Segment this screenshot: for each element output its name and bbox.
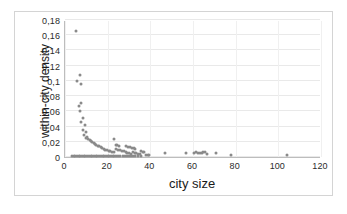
data-point — [82, 117, 85, 120]
data-point — [214, 151, 217, 154]
data-point — [229, 154, 232, 157]
gridline-vertical — [278, 21, 279, 157]
x-tick-label: 60 — [187, 161, 197, 172]
data-point — [139, 155, 142, 158]
x-tick-label: 20 — [102, 161, 112, 172]
data-point — [113, 138, 116, 141]
data-point — [118, 144, 121, 147]
data-point — [78, 105, 81, 108]
data-point — [184, 152, 187, 155]
data-point — [83, 124, 86, 127]
data-point — [112, 151, 115, 154]
gridline-vertical — [193, 21, 194, 157]
plot-area — [64, 21, 320, 158]
x-tick-label: 80 — [230, 161, 240, 172]
data-point — [80, 121, 83, 124]
data-point — [163, 151, 166, 154]
data-point — [285, 153, 288, 156]
gridline-vertical — [108, 21, 109, 157]
gridline-vertical — [236, 21, 237, 157]
y-tick-label: 0 — [55, 154, 60, 163]
data-point — [78, 109, 81, 112]
data-point — [205, 152, 208, 155]
gridline-vertical — [150, 21, 151, 157]
y-axis-title-wrapper: within-city density — [20, 20, 38, 160]
data-point — [79, 74, 82, 77]
x-axis-tick-labels: 020406080100120 — [64, 161, 320, 175]
y-axis-title: within-city density — [38, 16, 52, 166]
x-axis-title: city size — [64, 176, 320, 191]
scatter-chart: 00,020,040,060,080,10,120,140,160,18 020… — [0, 0, 347, 214]
data-point — [80, 101, 83, 104]
x-tick-label: 40 — [144, 161, 154, 172]
x-tick-label: 0 — [61, 161, 66, 172]
x-tick-label: 120 — [312, 161, 327, 172]
gridline-vertical — [65, 21, 66, 157]
data-point — [134, 148, 137, 151]
data-point — [75, 79, 78, 82]
data-point — [79, 83, 82, 86]
data-point — [148, 154, 151, 157]
x-tick-label: 100 — [270, 161, 285, 172]
data-point — [74, 30, 77, 33]
gridline-vertical — [321, 21, 322, 157]
gridline-horizontal — [65, 19, 320, 20]
